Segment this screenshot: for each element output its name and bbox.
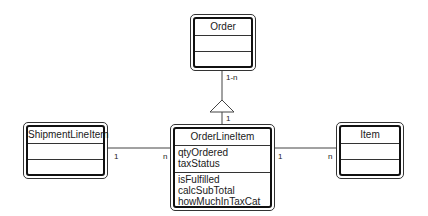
multiplicity-item-right: n [328, 152, 332, 161]
class-item[interactable]: Item [336, 122, 404, 179]
attribute: qtyOrdered [178, 147, 267, 158]
class-name: OrderLineItem [175, 129, 270, 146]
operations-section [28, 160, 103, 175]
generalization-triangle-icon [210, 100, 234, 112]
attributes-section: qtyOrdered taxStatus [175, 146, 270, 173]
attributes-section [341, 144, 399, 160]
operations-section: isFulfilled calcSubTotal howMuchInTaxCat [175, 173, 270, 208]
operation: calcSubTotal [178, 185, 267, 196]
multiplicity-item-left: 1 [278, 152, 282, 161]
operations-section [341, 160, 399, 175]
attributes-section [195, 36, 251, 52]
class-name: ShipmentLineItem [28, 127, 103, 144]
class-shipment-line-item[interactable]: ShipmentLineItem [23, 122, 108, 179]
class-name: Order [195, 19, 251, 36]
attributes-section [28, 144, 103, 160]
attribute: taxStatus [178, 158, 267, 169]
class-order-line-item[interactable]: OrderLineItem qtyOrdered taxStatus isFul… [170, 124, 275, 211]
multiplicity-order-bottom: 1 [226, 114, 230, 123]
operation: howMuchInTaxCat [178, 196, 267, 207]
class-order[interactable]: Order [190, 14, 256, 71]
multiplicity-shipment-right: n [163, 152, 167, 161]
operation: isFulfilled [178, 174, 267, 185]
multiplicity-order-top: 1-n [226, 73, 238, 82]
operations-section [195, 52, 251, 67]
class-name: Item [341, 127, 399, 144]
multiplicity-shipment-left: 1 [114, 152, 118, 161]
